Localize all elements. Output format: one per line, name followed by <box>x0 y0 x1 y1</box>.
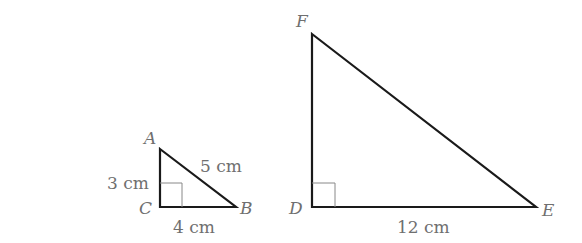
vertex-label-e: E <box>541 200 555 220</box>
similar-triangles-diagram: A B C 3 cm 4 cm 5 cm F D E 12 cm <box>0 0 582 243</box>
side-label-ab: 5 cm <box>200 156 242 176</box>
side-label-ac: 3 cm <box>107 173 149 193</box>
vertex-label-b: B <box>239 198 253 218</box>
side-label-de: 12 cm <box>397 217 450 237</box>
vertex-label-f: F <box>295 11 309 31</box>
triangle-abc: A B C 3 cm 4 cm 5 cm <box>107 128 253 237</box>
vertex-label-c: C <box>139 198 152 218</box>
vertex-label-d: D <box>288 198 303 218</box>
vertex-label-a: A <box>142 128 156 148</box>
side-label-cb: 4 cm <box>173 217 215 237</box>
triangle-def-shape <box>312 34 536 207</box>
right-angle-mark-c <box>160 183 182 207</box>
right-angle-mark-d <box>312 183 335 207</box>
triangle-def: F D E 12 cm <box>288 11 555 237</box>
